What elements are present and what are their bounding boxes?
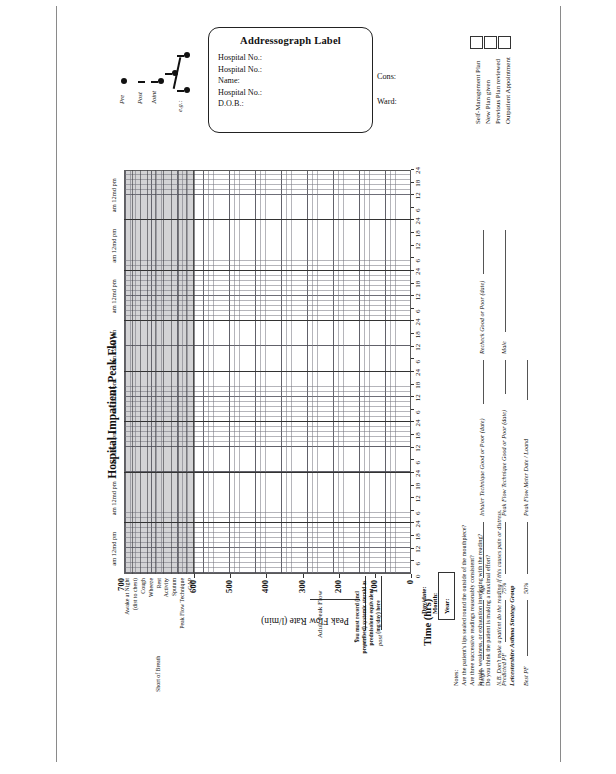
field-line-pf-meter[interactable] bbox=[527, 360, 528, 400]
day-separator bbox=[124, 422, 411, 423]
legend-label-pre: Pre bbox=[118, 95, 125, 104]
x-axis-tick-mark bbox=[411, 169, 414, 170]
field-label-height: Height bbox=[478, 669, 485, 686]
y-axis-tick-label: 200 bbox=[333, 580, 343, 606]
field-line-height[interactable] bbox=[483, 600, 484, 660]
x-axis-tick-label: 12 bbox=[414, 293, 422, 300]
x-axis-tick-mark bbox=[411, 510, 414, 511]
x-axis-tick-mark bbox=[411, 409, 414, 410]
field-name[interactable]: Name: bbox=[218, 75, 372, 87]
x-axis-tick-label: 24 bbox=[414, 470, 422, 477]
legend-label-post: Post bbox=[136, 92, 143, 104]
symptom-row-rule bbox=[194, 170, 195, 574]
field-line-pf-technique[interactable] bbox=[505, 360, 506, 394]
x-axis-tick-mark bbox=[411, 283, 414, 284]
x-axis-tick-label: 18 bbox=[414, 180, 422, 187]
day-header: am 12md pm bbox=[110, 274, 117, 319]
eg-bar-mid-icon bbox=[165, 73, 172, 75]
peak-flow-chart: Hospital Impatient Peak Flow Peak Flow R… bbox=[104, 150, 456, 660]
legend-label-joint: Joint bbox=[150, 91, 157, 104]
x-axis-tick-mark bbox=[411, 359, 414, 360]
symptom-row-rule bbox=[171, 170, 172, 574]
post-marker-icon bbox=[138, 81, 145, 83]
x-axis-tick-label: 18 bbox=[414, 230, 422, 237]
y-axis-tick-mark bbox=[194, 574, 195, 578]
x-axis-tick-mark bbox=[411, 384, 414, 385]
x-axis-tick-label: 6 bbox=[414, 461, 422, 465]
adult-peak-flow-label: Adult Peak Flow bbox=[316, 591, 324, 638]
x-axis-tick-mark bbox=[411, 182, 414, 183]
field-line-75pct[interactable] bbox=[505, 522, 506, 574]
field-hospital-no-1[interactable]: Hospital No.: bbox=[218, 52, 372, 64]
day-header: am 12md pm bbox=[110, 173, 117, 218]
chart-plot-area[interactable] bbox=[124, 170, 411, 574]
x-axis-tick-mark bbox=[411, 207, 414, 208]
y-axis-tick-label: 400 bbox=[260, 580, 270, 606]
x-axis-tick-label: 6 bbox=[414, 562, 422, 566]
field-cons[interactable]: Cons: bbox=[377, 64, 397, 89]
pre-marker-icon bbox=[121, 78, 127, 84]
notes-line-1: Are the patient's lips sealed round the … bbox=[460, 525, 468, 686]
notes-line-2: Are three successive readings reasonably… bbox=[468, 555, 476, 686]
y-axis-tick-mark bbox=[303, 574, 304, 578]
x-axis-tick-label: 12 bbox=[414, 445, 422, 452]
x-axis-tick-label: 6 bbox=[414, 511, 422, 515]
eg-bar-bot-icon bbox=[177, 90, 184, 92]
x-axis-tick-mark bbox=[411, 258, 414, 259]
x-axis-tick-mark bbox=[411, 434, 414, 435]
x-axis-tick-label: 18 bbox=[414, 533, 422, 540]
day-separator bbox=[124, 220, 411, 221]
symptom-row-rule bbox=[147, 170, 148, 574]
day-separator bbox=[124, 321, 411, 322]
x-axis-tick-mark bbox=[411, 321, 414, 322]
day-separator bbox=[124, 270, 411, 271]
plan-label-outpatient-appt: Outpatient Appointment bbox=[504, 57, 511, 124]
page-border-left bbox=[56, 6, 57, 762]
x-axis-tick-mark bbox=[411, 447, 414, 448]
field-hospital-no-2[interactable]: Hospital No.: bbox=[218, 64, 372, 76]
field-label-male: Male bbox=[500, 341, 507, 354]
x-axis-tick-label: 12 bbox=[414, 546, 422, 553]
y-axis-tick-mark bbox=[266, 574, 267, 578]
marker-legend: Pre Post Joint e.g.: bbox=[100, 40, 195, 130]
field-line-recheck[interactable] bbox=[483, 230, 484, 274]
field-line-50pct[interactable] bbox=[527, 522, 528, 574]
x-axis-tick-label: 24 bbox=[414, 420, 422, 427]
x-axis-tick-label: 12 bbox=[414, 394, 422, 401]
legend-label-eg: e.g.: bbox=[176, 100, 183, 112]
x-axis-tick-label: 6 bbox=[414, 259, 422, 263]
field-label-inhaler-technique: Inhaler Technique Good or Poor (date) bbox=[478, 418, 485, 516]
notes-heading: Notes: bbox=[452, 670, 459, 686]
field-line-inhaler[interactable] bbox=[483, 360, 484, 404]
checkbox-previous-plan-reviewed[interactable] bbox=[484, 36, 497, 49]
x-axis-tick-mark bbox=[411, 561, 414, 562]
symptom-row-label: Rest bbox=[156, 578, 162, 654]
x-axis-tick-label: 24 bbox=[414, 268, 422, 275]
checkbox-new-plan-given[interactable] bbox=[470, 36, 483, 49]
field-dob[interactable]: D.O.B.: bbox=[218, 98, 372, 110]
symptom-row-rule bbox=[186, 170, 187, 574]
field-label-50pct: 50% bbox=[522, 583, 529, 594]
addressograph-box: Addressograph Label Hospital No.: Hospit… bbox=[208, 27, 373, 133]
field-line-predicted-pf[interactable] bbox=[505, 600, 506, 642]
eg-bar-top-icon bbox=[177, 55, 184, 57]
y-axis-tick-label: 0 bbox=[405, 580, 415, 606]
field-hospital-no-3[interactable]: Hospital No.: bbox=[218, 87, 372, 99]
x-axis-tick-mark bbox=[411, 194, 414, 195]
field-line-age[interactable] bbox=[483, 522, 484, 578]
x-axis-tick-mark bbox=[411, 333, 414, 334]
x-axis-tick-mark bbox=[411, 232, 414, 233]
field-ward[interactable]: Ward: bbox=[377, 89, 397, 114]
x-axis-tick-mark bbox=[411, 548, 414, 549]
symptom-row-label: Awake at Night bbox=[124, 578, 130, 654]
plan-label-self-management: Self-Management Plan bbox=[474, 61, 481, 124]
symptom-row-rule bbox=[140, 170, 141, 574]
symptom-row-rule bbox=[178, 170, 179, 574]
checkbox-outpatient-appointment[interactable] bbox=[498, 36, 511, 49]
x-axis-tick-mark bbox=[411, 346, 414, 347]
y-axis-tick-label: 500 bbox=[224, 580, 234, 606]
field-line-best-pf[interactable] bbox=[527, 600, 528, 656]
x-axis-tick-label: 18 bbox=[414, 331, 422, 338]
field-line-male[interactable] bbox=[505, 230, 506, 332]
field-label-predicted-pf: Predicted PF bbox=[500, 653, 507, 686]
